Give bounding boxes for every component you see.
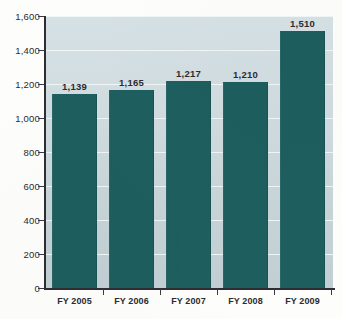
plot-area <box>44 16 333 288</box>
x-axis-tick-4 <box>274 289 275 295</box>
x-axis-line <box>44 288 335 290</box>
bar-fy-2006[interactable] <box>109 90 155 288</box>
bar-slot <box>46 16 103 288</box>
x-axis-label-fy-2006: FY 2006 <box>103 296 160 306</box>
x-axis-label-fy-2008: FY 2008 <box>217 296 274 306</box>
y-axis-tick-1600 <box>38 16 44 17</box>
x-axis-labels-group: FY 2005FY 2006FY 2007FY 2008FY 2009 <box>44 296 333 306</box>
bar-slot <box>274 16 331 288</box>
bar-fy-2005[interactable] <box>52 94 98 288</box>
bar-fy-2009[interactable] <box>280 31 326 288</box>
x-axis-label-fy-2005: FY 2005 <box>46 296 103 306</box>
x-axis-tick-5 <box>331 289 332 295</box>
x-axis-tick-3 <box>217 289 218 295</box>
y-axis-tick-800 <box>38 152 44 153</box>
bar-value-label-fy-2007: 1,217 <box>176 68 201 79</box>
bar-chart: 1,1391,1651,2171,2101,510 02004006008001… <box>0 0 342 319</box>
bar-value-label-fy-2008: 1,210 <box>233 69 258 80</box>
bar-fy-2008[interactable] <box>223 82 269 288</box>
y-axis-tick-600 <box>38 186 44 187</box>
bar-value-label-fy-2005: 1,139 <box>62 81 87 92</box>
bar-value-label-fy-2009: 1,510 <box>290 18 315 29</box>
y-axis-tick-200 <box>38 254 44 255</box>
y-axis-tick-1400 <box>38 50 44 51</box>
y-axis-tick-1000 <box>38 118 44 119</box>
x-axis-tick-2 <box>160 289 161 295</box>
bar-slot <box>160 16 217 288</box>
x-axis-label-fy-2007: FY 2007 <box>160 296 217 306</box>
y-axis-tick-400 <box>38 220 44 221</box>
bar-slot <box>103 16 160 288</box>
y-axis-tick-1200 <box>38 84 44 85</box>
bar-fy-2007[interactable] <box>166 81 212 288</box>
x-axis-label-fy-2009: FY 2009 <box>274 296 331 306</box>
x-axis-tick-1 <box>103 289 104 295</box>
bar-value-label-fy-2006: 1,165 <box>119 77 144 88</box>
bars-group <box>44 16 333 288</box>
y-axis-line <box>44 16 46 288</box>
bar-slot <box>217 16 274 288</box>
y-axis-tick-0 <box>38 288 44 289</box>
y-axis-labels-group: 02004006008001,0001,2001,4001,600 <box>0 0 44 319</box>
